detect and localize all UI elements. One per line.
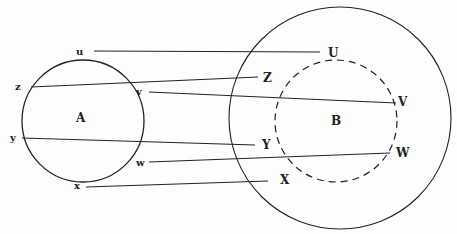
label-W: W bbox=[395, 146, 410, 160]
label-Y: Y bbox=[261, 138, 271, 152]
diagram-canvas: A B u z v y w x U Z V Y W X bbox=[0, 0, 457, 234]
label-U: U bbox=[328, 46, 339, 60]
line-v-V bbox=[149, 92, 396, 103]
label-B: B bbox=[331, 114, 341, 128]
line-x-X bbox=[86, 181, 268, 187]
line-u-U bbox=[94, 51, 320, 52]
label-x: x bbox=[74, 180, 81, 191]
label-A: A bbox=[75, 111, 86, 125]
set-mapping-diagram: A B u z v y w x U Z V Y W X bbox=[0, 0, 457, 234]
line-y-Y bbox=[22, 138, 255, 145]
line-w-W bbox=[149, 153, 390, 162]
label-z: z bbox=[15, 81, 21, 92]
label-u: u bbox=[76, 46, 83, 57]
label-X: X bbox=[280, 173, 290, 187]
label-w: w bbox=[135, 157, 145, 168]
label-Z: Z bbox=[263, 71, 272, 85]
label-y: y bbox=[9, 132, 17, 143]
label-v: v bbox=[135, 86, 143, 97]
label-V: V bbox=[397, 95, 408, 109]
line-z-Z bbox=[31, 77, 258, 87]
